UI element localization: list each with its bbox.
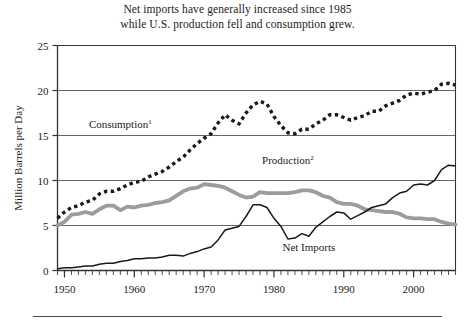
gridlines [58, 46, 456, 226]
data-series [58, 83, 456, 268]
x-tick-label: 1970 [193, 283, 216, 295]
x-tick-label: 1950 [53, 283, 76, 295]
x-tick-label: 1990 [333, 283, 356, 295]
y-tick-label: 25 [38, 40, 50, 52]
y-axis-title-text: Million Barrels per Day [12, 105, 24, 211]
series-line-consumption [58, 83, 456, 218]
series-label-production: Production2 [262, 154, 314, 166]
y-tick-label: 15 [38, 130, 50, 142]
y-axis-ticks: 0510152025 [38, 40, 58, 277]
y-tick-label: 5 [43, 220, 49, 232]
series-label-net-imports: Net Imports [282, 241, 335, 253]
x-axis-ticks: 195019601970198019902000 [53, 271, 455, 295]
x-tick-label: 2000 [403, 283, 426, 295]
x-tick-label: 1960 [123, 283, 146, 295]
chart-figure: Net imports have generally increased sin… [0, 0, 475, 324]
x-tick-label: 1980 [263, 283, 286, 295]
plot-frame [58, 46, 456, 271]
series-label-consumption: Consumption1 [89, 118, 152, 130]
line-chart-plot: 0510152025 195019601970198019902000 Cons… [0, 0, 475, 324]
y-tick-label: 0 [43, 265, 49, 277]
y-tick-label: 10 [38, 175, 50, 187]
y-axis-title: Million Barrels per Day [12, 105, 24, 211]
y-tick-label: 20 [38, 85, 50, 97]
